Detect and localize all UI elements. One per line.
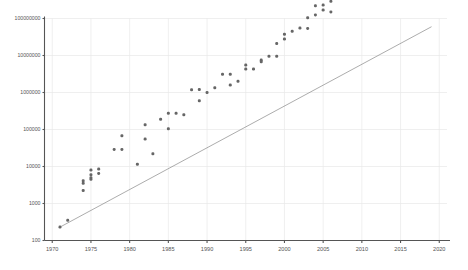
data-point bbox=[58, 226, 61, 229]
data-point bbox=[206, 91, 209, 94]
x-tick-label: 1995 bbox=[240, 246, 252, 252]
data-point bbox=[329, 10, 332, 13]
data-point bbox=[120, 134, 123, 137]
data-point bbox=[322, 4, 325, 7]
data-point bbox=[89, 173, 92, 176]
y-tick-label: 10000000 bbox=[17, 52, 40, 58]
data-point bbox=[244, 68, 247, 71]
data-point bbox=[120, 148, 123, 151]
data-point bbox=[144, 138, 147, 141]
y-tick-label: 1000 bbox=[29, 200, 41, 206]
x-tick-labels: 1970197519801985199019952000200520102015… bbox=[46, 246, 445, 252]
data-point bbox=[113, 148, 116, 151]
x-tick-label: 2000 bbox=[278, 246, 290, 252]
data-point bbox=[275, 55, 278, 58]
data-point bbox=[306, 16, 309, 19]
gridlines bbox=[45, 19, 448, 241]
data-point bbox=[97, 172, 100, 175]
x-tick-label: 1985 bbox=[162, 246, 174, 252]
data-point bbox=[175, 112, 178, 115]
data-point bbox=[283, 33, 286, 36]
x-tick-label: 1975 bbox=[85, 246, 97, 252]
data-point bbox=[306, 27, 309, 30]
data-point bbox=[298, 27, 301, 30]
data-point bbox=[190, 88, 193, 91]
data-point bbox=[291, 30, 294, 33]
data-point bbox=[244, 64, 247, 67]
data-point bbox=[213, 86, 216, 89]
data-point bbox=[182, 113, 185, 116]
data-point bbox=[144, 123, 147, 126]
data-point bbox=[237, 80, 240, 83]
x-tick-label: 1990 bbox=[201, 246, 213, 252]
y-tick-label: 100000 bbox=[23, 126, 40, 132]
data-point bbox=[198, 88, 201, 91]
data-point bbox=[275, 42, 278, 45]
data-point bbox=[229, 73, 232, 76]
x-tick-label: 2005 bbox=[317, 246, 329, 252]
data-point bbox=[260, 60, 263, 63]
data-point bbox=[329, 0, 332, 3]
y-tick-label: 10000 bbox=[26, 163, 41, 169]
data-point bbox=[229, 83, 232, 86]
x-tick-label: 2010 bbox=[356, 246, 368, 252]
data-point bbox=[322, 9, 325, 12]
data-point bbox=[167, 127, 170, 130]
data-point bbox=[97, 168, 100, 171]
x-tick-label: 2020 bbox=[433, 246, 445, 252]
data-point bbox=[151, 152, 154, 155]
scatter-plot: 1001000100001000001000000100000001000000… bbox=[0, 0, 468, 270]
y-tick-labels: 1001000100001000001000000100000001000000… bbox=[15, 15, 41, 243]
data-point bbox=[198, 99, 201, 102]
y-tick-label: 100000000 bbox=[15, 15, 41, 21]
chart-container: 1001000100001000001000000100000001000000… bbox=[0, 0, 468, 270]
data-point bbox=[66, 219, 69, 222]
data-point bbox=[267, 55, 270, 58]
data-point bbox=[136, 163, 139, 166]
data-point bbox=[89, 176, 92, 179]
data-point bbox=[314, 4, 317, 7]
data-point bbox=[82, 179, 85, 182]
data-point bbox=[283, 37, 286, 40]
y-tick-label: 100 bbox=[32, 237, 41, 243]
data-point bbox=[314, 13, 317, 16]
data-point bbox=[221, 73, 224, 76]
x-tick-label: 1970 bbox=[46, 246, 58, 252]
data-point bbox=[82, 189, 85, 192]
x-tick-label: 2015 bbox=[394, 246, 406, 252]
data-point bbox=[159, 118, 162, 121]
data-point bbox=[252, 68, 255, 71]
data-point bbox=[167, 112, 170, 115]
data-point bbox=[89, 169, 92, 172]
y-tick-label: 1000000 bbox=[20, 89, 40, 95]
x-tick-label: 1980 bbox=[123, 246, 135, 252]
